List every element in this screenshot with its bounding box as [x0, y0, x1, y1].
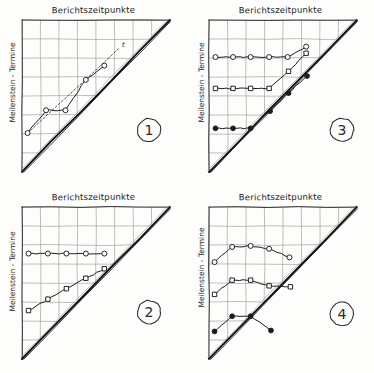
data-point-marker — [269, 328, 274, 333]
badge-ring — [327, 115, 357, 145]
figure-sheet: Berichtszeitpunkte Meilenstein - Termine… — [0, 0, 374, 373]
data-point-marker — [268, 109, 273, 114]
data-point-marker — [287, 255, 292, 260]
panel-2-badge: 2 — [134, 297, 164, 327]
data-point-marker — [231, 55, 236, 60]
data-point-marker — [248, 314, 253, 319]
data-point-marker — [26, 308, 30, 312]
data-point-marker — [25, 131, 30, 136]
data-point-marker — [83, 77, 88, 82]
trend-label: t — [122, 41, 125, 49]
data-point-marker — [285, 55, 290, 60]
data-point-marker — [267, 246, 272, 251]
data-point-marker — [267, 55, 272, 60]
data-point-marker — [231, 126, 236, 131]
data-point-marker — [230, 278, 235, 283]
panel-1-ylabel: Meilenstein - Termine — [8, 28, 17, 138]
panel-3-badge: 3 — [327, 115, 357, 145]
data-point-marker — [213, 126, 218, 131]
data-point-marker — [267, 284, 272, 289]
data-point-marker — [44, 108, 49, 113]
data-point-marker — [248, 55, 253, 60]
data-point-marker — [286, 91, 291, 96]
data-point-marker — [230, 244, 235, 249]
data-point-marker — [304, 51, 309, 56]
panel-4: Berichtszeitpunkte Meilenstein - Termine… — [187, 187, 374, 373]
panel-3-plot — [209, 20, 357, 172]
panel-4-title: Berichtszeitpunkte — [187, 191, 374, 203]
panel-2-ylabel: Meilenstein - Termine — [8, 217, 17, 327]
panel-3: Berichtszeitpunkte Meilenstein - Termine… — [187, 0, 374, 186]
panel-4-plot — [209, 207, 357, 359]
data-point-marker — [248, 243, 253, 248]
data-point-marker — [102, 251, 107, 256]
data-point-marker — [248, 278, 253, 283]
data-point-marker — [102, 266, 107, 271]
data-point-marker — [84, 276, 89, 281]
badge-ring — [134, 115, 164, 145]
data-point-marker — [288, 284, 293, 289]
data-point-marker — [304, 44, 309, 49]
data-point-marker — [267, 86, 272, 91]
data-point-marker — [64, 251, 69, 256]
data-point-marker — [213, 86, 217, 90]
data-point-marker — [305, 74, 310, 79]
panel-4-svg — [209, 207, 357, 359]
data-point-marker — [212, 292, 216, 296]
panel-3-svg — [209, 20, 357, 172]
panel-2-title: Berichtszeitpunkte — [0, 191, 187, 203]
panel-1-plot: t — [22, 20, 170, 172]
panel-2-svg — [22, 207, 170, 359]
data-point-marker — [212, 329, 217, 334]
panel-1-title: Berichtszeitpunkte — [0, 4, 187, 16]
data-point-marker — [231, 86, 236, 91]
data-point-marker — [64, 286, 69, 291]
badge-ring — [134, 297, 164, 327]
data-point-marker — [83, 251, 88, 256]
data-point-marker — [26, 251, 31, 256]
panel-1-badge: 1 — [134, 115, 164, 145]
data-point-marker — [212, 260, 217, 265]
badge-ring — [327, 299, 357, 329]
panel-2-plot — [22, 207, 170, 359]
panel-1: Berichtszeitpunkte Meilenstein - Termine… — [0, 0, 187, 186]
data-point-marker — [45, 251, 50, 256]
panel-3-title: Berichtszeitpunkte — [187, 4, 374, 16]
panel-2: Berichtszeitpunkte Meilenstein - Termine… — [0, 187, 187, 373]
panel-3-ylabel: Meilenstein - Termine — [197, 28, 206, 138]
panel-4-badge: 4 — [327, 299, 357, 329]
data-point-marker — [213, 55, 218, 60]
panel-4-ylabel: Meilenstein - Termine — [197, 213, 206, 323]
data-point-marker — [248, 86, 252, 90]
panel-1-svg: t — [22, 20, 170, 172]
data-point-marker — [102, 63, 107, 68]
data-point-marker — [46, 297, 51, 302]
data-point-marker — [286, 69, 291, 74]
data-point-marker — [63, 108, 68, 113]
data-point-marker — [248, 126, 253, 131]
data-point-marker — [230, 314, 235, 319]
